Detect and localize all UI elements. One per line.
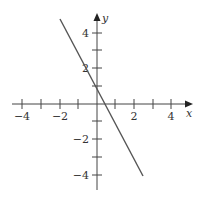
y-tick-label: −4 <box>73 169 89 182</box>
x-tick-label: 2 <box>131 110 138 123</box>
x-axis-label: x <box>186 107 193 120</box>
chart: −4 −2 2 4 x 4 2 −2 −4 y <box>0 0 203 199</box>
y-axis-arrow-icon <box>94 13 101 21</box>
y-axis-label: y <box>101 12 109 25</box>
y-tick-label: 4 <box>82 27 89 40</box>
x-tick-label: 4 <box>168 110 175 123</box>
x-tick-label: −4 <box>14 110 30 123</box>
data-line <box>60 19 143 176</box>
x-tick-label: −2 <box>52 110 68 123</box>
y-tick-label: −2 <box>73 133 89 146</box>
